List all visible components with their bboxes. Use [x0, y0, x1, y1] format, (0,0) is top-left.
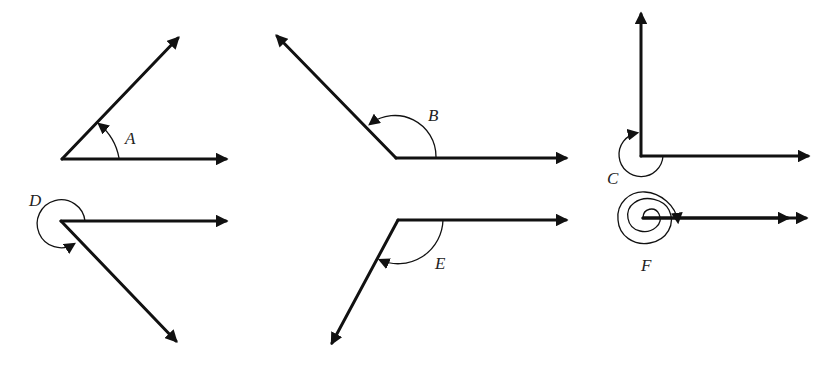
angle-c-label: C [607, 169, 619, 188]
angle-d: D [28, 191, 226, 341]
angle-diagram-svg: A B C D E F [0, 0, 837, 370]
angle-a-label: A [124, 129, 136, 148]
angle-b-rotation-arrow [370, 115, 436, 157]
angle-d-terminal-ray [61, 221, 176, 341]
angle-b-terminal-ray [277, 36, 396, 158]
angle-f-label: F [640, 256, 652, 275]
angle-d-label: D [28, 191, 42, 210]
angle-a: A [62, 38, 226, 159]
angle-f: F [618, 192, 806, 275]
angle-a-rotation-arrow [99, 124, 119, 158]
angle-e: E [332, 220, 566, 343]
angle-b-label: B [428, 106, 439, 125]
angle-b: B [277, 36, 566, 158]
angle-e-rotation-arrow [380, 220, 443, 264]
angle-diagram: A B C D E F [0, 0, 837, 370]
angle-c: C [607, 14, 808, 188]
angle-e-label: E [434, 254, 446, 273]
angle-a-terminal-ray [62, 38, 178, 159]
angle-e-terminal-ray [332, 220, 398, 343]
